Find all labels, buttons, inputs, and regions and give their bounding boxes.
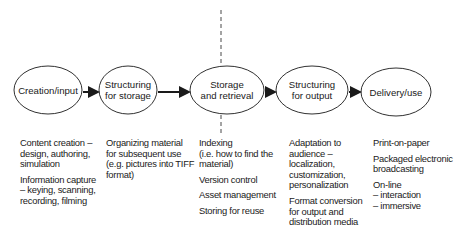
- stage-description-column: Print-on-paperPackaged electronic broadc…: [373, 138, 453, 217]
- stage-description-item: Version control: [199, 175, 276, 186]
- stage-node-storage-retrieval: Storageand retrieval: [190, 66, 264, 114]
- stage-node-delivery: Delivery/use: [361, 68, 431, 116]
- stage-label: for storage: [105, 90, 151, 101]
- stage-description-item: Storing for reuse: [199, 206, 276, 217]
- stage-description-item: Format conversion for output and distrib…: [289, 196, 362, 228]
- stage-node-creation: Creation/input: [14, 66, 82, 114]
- stage-description-item: On-line – interaction – immersive: [373, 180, 453, 212]
- stage-description-column: Content creation – design, authoring, si…: [20, 138, 96, 212]
- stage-description-item: Packaged electronic broadcasting: [373, 154, 453, 175]
- stage-node-structuring-output: Structuringfor output: [276, 66, 348, 114]
- stage-description-item: Asset management: [199, 190, 276, 201]
- stage-description-item: Adaptation to audience – localization, c…: [289, 138, 362, 191]
- stage-description-item: Content creation – design, authoring, si…: [20, 138, 96, 170]
- stage-description-item: Information capture – keying, scanning, …: [20, 175, 96, 207]
- stage-label: and retrieval: [201, 90, 254, 101]
- stage-label: Creation/input: [18, 85, 78, 96]
- stage-label: for output: [292, 90, 333, 101]
- stage-description-item: Indexing (i.e. how to find the material): [199, 138, 276, 170]
- stage-description-column: Indexing (i.e. how to find the material)…: [199, 138, 276, 222]
- stage-label: Structuring: [289, 79, 335, 90]
- stage-label: Structuring: [105, 79, 151, 90]
- stage-node-structuring-storage: Structuringfor storage: [99, 66, 157, 114]
- stage-description-item: Organizing material for subsequent use (…: [106, 138, 194, 180]
- stage-label: Storage: [210, 79, 244, 90]
- stage-description-column: Adaptation to audience – localization, c…: [289, 138, 362, 233]
- stage-description-column: Organizing material for subsequent use (…: [106, 138, 194, 185]
- stage-label: Delivery/use: [370, 87, 423, 98]
- stage-description-item: Print-on-paper: [373, 138, 453, 149]
